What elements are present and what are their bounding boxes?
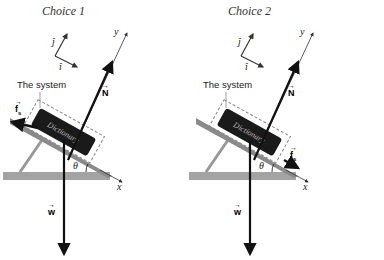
j-hat-arrow (55, 34, 67, 56)
y-axis-label: y (114, 26, 118, 37)
ground-board (3, 172, 110, 180)
angle-label: θ (259, 160, 264, 171)
angle-label: θ (73, 160, 78, 171)
weight-label: →w (48, 207, 55, 217)
normal-label: →N (102, 88, 109, 98)
system-label: The system (17, 79, 66, 90)
free-body-diagram-1: Dictionary (0, 0, 192, 260)
weight-label: →w (234, 207, 241, 217)
choice-1-panel: Dictionary Choice 1 ĵ î y x The system →… (0, 0, 192, 260)
choice-title: Choice 1 (42, 4, 85, 19)
j-hat-label: ĵ (52, 36, 55, 47)
friction-label: →fs (15, 104, 21, 116)
choice-title: Choice 2 (228, 4, 271, 19)
i-hat-label: î (245, 61, 248, 72)
system-label: The system (203, 79, 252, 90)
j-hat-label: ĵ (238, 36, 241, 47)
y-axis-label: y (300, 26, 304, 37)
i-hat-label: î (59, 61, 62, 72)
free-body-diagram-2: Dictionary (186, 0, 378, 260)
x-axis-label: x (117, 181, 121, 192)
choice-2-panel: Dictionary Choice 2 ĵ î y x The system →… (186, 0, 378, 260)
normal-label: →N (288, 88, 295, 98)
friction-label: →fs (290, 150, 296, 162)
x-axis-label: x (303, 181, 307, 192)
